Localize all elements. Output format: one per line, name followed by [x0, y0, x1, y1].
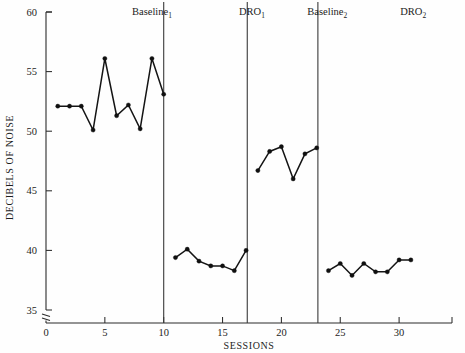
data-point-phase-4-session-25 [338, 261, 342, 265]
y-tick-label-60: 60 [27, 7, 38, 18]
data-point-phase-1-session-3 [79, 104, 83, 108]
y-tick-label-45: 45 [27, 185, 38, 196]
data-point-phase-2-session-16 [232, 269, 236, 273]
x-tick-label-20: 20 [276, 327, 287, 338]
x-tick-label-5: 5 [102, 327, 107, 338]
x-tick-label-25: 25 [335, 327, 346, 338]
data-point-phase-2-session-17 [244, 248, 248, 252]
x-tick-label-15: 15 [217, 327, 228, 338]
data-point-phase-4-session-24 [326, 269, 330, 273]
data-point-phase-3-session-21 [291, 177, 295, 181]
x-axis-title: SESSIONS [224, 340, 275, 351]
data-point-phase-1-session-8 [138, 127, 142, 131]
data-point-phase-1-session-1 [56, 104, 60, 108]
data-point-phase-3-session-19 [268, 149, 272, 153]
data-point-phase-1-session-7 [126, 103, 130, 107]
data-point-phase-2-session-14 [209, 264, 213, 268]
y-tick-label-50: 50 [27, 126, 38, 137]
data-point-phase-4-session-28 [373, 270, 377, 274]
data-point-phase-4-session-29 [385, 270, 389, 274]
data-point-phase-3-session-20 [279, 145, 283, 149]
data-series-group [56, 56, 413, 277]
x-tick-label-10: 10 [158, 327, 169, 338]
labels-group: 354045505560051015202530Baseline1DRO1Bas… [4, 6, 426, 351]
data-point-phase-2-session-11 [173, 255, 177, 259]
phase-label-4: DRO2 [400, 6, 426, 20]
data-point-phase-3-session-23 [315, 146, 319, 150]
data-point-phase-4-session-26 [350, 273, 354, 277]
y-tick-label-55: 55 [27, 66, 38, 77]
chart-figure: 354045505560051015202530Baseline1DRO1Bas… [0, 0, 465, 353]
data-point-phase-1-session-4 [91, 128, 95, 132]
y-axis-title: DECIBELS OF NOISE [4, 115, 15, 220]
data-point-phase-1-session-9 [150, 56, 154, 60]
data-point-phase-4-session-30 [397, 258, 401, 262]
data-point-phase-1-session-10 [162, 92, 166, 96]
data-point-phase-1-session-2 [67, 104, 71, 108]
data-point-phase-1-session-5 [103, 56, 107, 60]
data-point-phase-4-session-27 [362, 261, 366, 265]
data-point-phase-2-session-13 [197, 259, 201, 263]
x-tick-label-30: 30 [394, 327, 405, 338]
data-point-phase-1-session-6 [115, 114, 119, 118]
phase-label-1: Baseline1 [132, 6, 172, 20]
single-case-design-line-chart: 354045505560051015202530Baseline1DRO1Bas… [0, 0, 465, 353]
data-point-phase-4-session-31 [409, 258, 413, 262]
series-line-phase-3 [258, 147, 317, 179]
phase-label-3: Baseline2 [307, 6, 347, 20]
data-point-phase-2-session-15 [220, 264, 224, 268]
data-point-phase-3-session-22 [303, 152, 307, 156]
y-tick-label-35: 35 [27, 305, 38, 316]
data-point-phase-2-session-12 [185, 247, 189, 251]
y-axis-break-marks [42, 314, 50, 321]
x-tick-label-0: 0 [43, 327, 48, 338]
series-line-phase-1 [58, 58, 164, 130]
phase-dividers-group [164, 2, 318, 323]
phase-label-2: DRO1 [239, 6, 265, 20]
y-tick-label-40: 40 [27, 245, 38, 256]
data-point-phase-3-session-18 [256, 168, 260, 172]
